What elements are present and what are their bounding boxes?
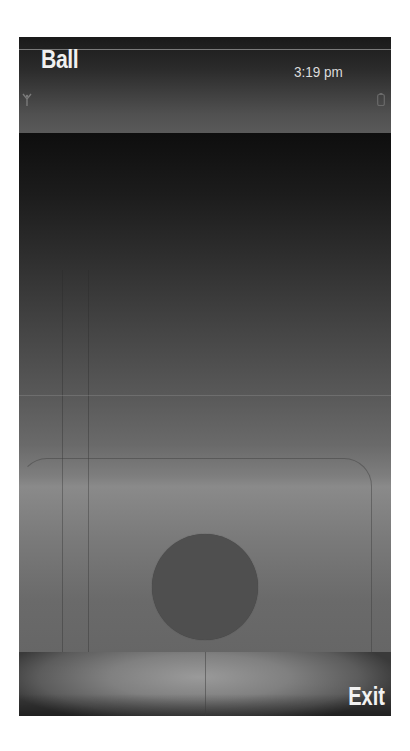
app-title: Ball [41, 45, 78, 74]
ball[interactable] [152, 534, 258, 640]
softkey-divider [205, 652, 206, 716]
clock: 3:19 pm [294, 63, 343, 80]
ball-canvas[interactable] [19, 133, 391, 653]
phone-screen: Ball 3:19 pm Exit [19, 37, 391, 716]
exit-button[interactable]: Exit [348, 682, 385, 711]
signal-antenna-icon [22, 93, 32, 107]
softkey-bar: Exit [19, 652, 391, 716]
status-header: Ball 3:19 pm [19, 37, 391, 133]
battery-icon [377, 93, 385, 106]
grid-line-horizontal [19, 395, 391, 396]
